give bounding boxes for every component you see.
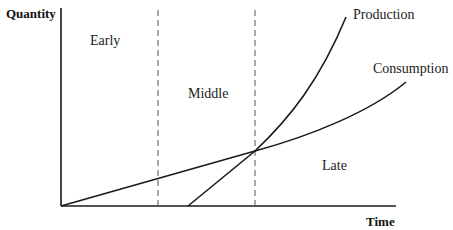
consumption-curve	[61, 82, 406, 206]
chart-canvas: Quantity Time Production Consumption Ear…	[0, 0, 453, 230]
x-axis-label: Time	[366, 214, 395, 229]
region-late-label: Late	[322, 158, 347, 173]
consumption-label: Consumption	[373, 61, 448, 76]
y-axis-label: Quantity	[6, 6, 56, 21]
region-middle-label: Middle	[188, 86, 228, 101]
production-curve	[188, 17, 346, 206]
production-label: Production	[353, 7, 414, 22]
region-early-label: Early	[90, 33, 120, 48]
